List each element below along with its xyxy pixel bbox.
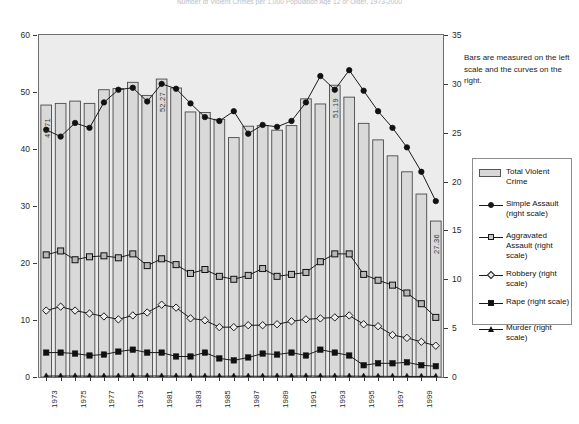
x-axis-tick-label: 1987	[252, 390, 261, 408]
axis-tick	[444, 133, 448, 134]
x-axis-tick	[61, 377, 62, 381]
axis-tick	[33, 206, 37, 207]
bar	[142, 95, 153, 377]
bar	[344, 97, 355, 377]
axis-tick	[33, 320, 37, 321]
legend-item-label: Aggravated Assault (right scale)	[506, 231, 571, 261]
right-axis-tick-label: 25	[452, 128, 474, 138]
bar	[70, 101, 81, 377]
bar	[200, 113, 211, 377]
legend-item[interactable]: Total Violent Crime	[479, 167, 571, 187]
legend-item[interactable]: Murder (right scale)	[479, 323, 571, 343]
right-axis-tick-label: 20	[452, 177, 474, 187]
left-axis-tick-label: 0	[6, 372, 30, 382]
x-axis-tick	[421, 377, 422, 381]
chart-page: Number of Violent Crimes per 1,000 Popul…	[0, 0, 579, 424]
plot-area	[38, 34, 444, 378]
bar	[185, 112, 196, 377]
legend-item[interactable]: Robbery (right scale)	[479, 269, 571, 289]
bar	[416, 194, 427, 377]
x-axis-tick-label: 1977	[107, 390, 116, 408]
bar	[113, 89, 124, 377]
x-axis-tick	[292, 377, 293, 381]
x-axis-tick	[335, 377, 336, 381]
x-axis-tick	[176, 377, 177, 381]
legend-marker	[488, 300, 494, 306]
axis-tick	[33, 92, 37, 93]
x-axis-tick-label: 1973	[50, 390, 59, 408]
legend-item[interactable]: Aggravated Assault (right scale)	[479, 231, 571, 261]
x-axis-tick	[320, 377, 321, 381]
legend-item[interactable]: Simple Assault (right scale)	[479, 199, 571, 219]
left-axis-tick-label: 60	[6, 30, 30, 40]
x-axis-tick	[118, 377, 119, 381]
bar	[99, 90, 110, 377]
bar-value-label: 51.19	[331, 98, 340, 118]
bar	[286, 126, 297, 377]
legend-marker-square-solid-icon	[479, 298, 503, 309]
x-axis-tick-label: 1989	[281, 390, 290, 408]
axis-tick	[444, 84, 448, 85]
legend-item[interactable]: Rape (right scale)	[479, 297, 571, 309]
bar	[214, 119, 225, 377]
x-axis-tick	[46, 377, 47, 381]
right-axis-tick-label: 15	[452, 225, 474, 235]
x-axis-tick	[133, 377, 134, 381]
axis-tick	[444, 230, 448, 231]
legend-marker	[488, 234, 494, 240]
left-axis-tick-label: 40	[6, 144, 30, 154]
legend-item-label: Robbery (right scale)	[506, 269, 571, 289]
right-axis-tick-label: 5	[452, 323, 474, 333]
x-axis-tick	[90, 377, 91, 381]
bar	[41, 105, 52, 377]
x-axis-tick-label: 1981	[165, 390, 174, 408]
x-axis-tick-label: 1999	[425, 390, 434, 408]
x-axis-tick	[162, 377, 163, 381]
x-axis-tick	[378, 377, 379, 381]
x-axis-tick	[248, 377, 249, 381]
legend-item-label: Total Violent Crime	[506, 167, 571, 187]
bar	[171, 88, 182, 377]
bar	[329, 85, 340, 377]
bar	[387, 156, 398, 377]
x-axis-tick	[234, 377, 235, 381]
bar	[402, 172, 413, 377]
chart-legend: Total Violent CrimeSimple Assault (right…	[472, 158, 572, 325]
axis-tick	[444, 377, 448, 378]
x-axis-tick-label: 1993	[338, 390, 347, 408]
left-axis-tick-label: 50	[6, 87, 30, 97]
legend-item-label: Rape (right scale)	[506, 297, 571, 307]
right-axis-tick-label: 10	[452, 274, 474, 284]
bar	[84, 103, 95, 377]
legend-item-label: Murder (right scale)	[506, 323, 571, 343]
bar	[358, 123, 369, 377]
x-axis-tick-label: 1997	[396, 390, 405, 408]
x-axis-tick	[75, 377, 76, 381]
axis-tick	[33, 377, 37, 378]
axis-tick	[444, 182, 448, 183]
x-axis-tick	[349, 377, 350, 381]
x-axis-tick-label: 1985	[223, 390, 232, 408]
x-axis-tick	[306, 377, 307, 381]
legend-marker-square-open-icon	[479, 232, 503, 243]
axis-tick	[33, 35, 37, 36]
bar	[228, 138, 239, 377]
x-axis-tick	[436, 377, 437, 381]
x-axis-tick-label: 1979	[136, 390, 145, 408]
x-axis-tick	[191, 377, 192, 381]
legend-marker-bar-swatch-icon	[479, 168, 503, 179]
x-axis-tick	[205, 377, 206, 381]
chart-title: Number of Violent Crimes per 1,000 Popul…	[0, 0, 579, 5]
bar	[55, 103, 66, 377]
bar	[243, 126, 254, 377]
x-axis-tick	[219, 377, 220, 381]
x-axis-tick-label: 1991	[309, 390, 318, 408]
legend-bar-swatch	[479, 169, 501, 177]
bar	[315, 104, 326, 377]
right-axis-tick-label: 0	[452, 372, 474, 382]
legend-marker-circle-icon	[479, 200, 503, 211]
x-axis-tick	[364, 377, 365, 381]
bar	[272, 130, 283, 377]
axis-tick	[33, 263, 37, 264]
measurement-note: Bars are measured on the left scale and …	[464, 52, 576, 87]
